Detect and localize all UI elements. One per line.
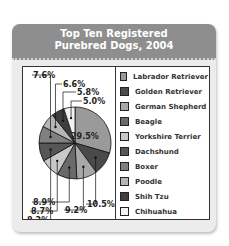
title-line-2: Purebred Dogs, 2004 (12, 40, 216, 52)
legend-label: Dachshund (135, 148, 179, 156)
legend-item: Yorkshire Terrier (120, 129, 208, 144)
legend-swatch (120, 87, 129, 96)
legend-swatch (120, 162, 129, 171)
legend-swatch (120, 177, 129, 186)
slice-label: 8.9% (33, 198, 55, 207)
legend-item: Shih Tzu (120, 189, 208, 204)
legend-swatch (120, 207, 129, 216)
legend-label: Poodle (135, 178, 162, 186)
legend-item: Boxer (120, 159, 208, 174)
legend-item: Poodle (120, 174, 208, 189)
title-line-1: Top Ten Registered (12, 28, 216, 40)
legend-swatch (120, 102, 129, 111)
chart-title: Top Ten Registered Purebred Dogs, 2004 (12, 28, 216, 52)
legend-label: Yorkshire Terrier (135, 133, 201, 141)
legend-swatch (120, 147, 129, 156)
legend-item: Golden Retriever (120, 84, 208, 99)
chart-header: Top Ten Registered Purebred Dogs, 2004 (12, 24, 216, 60)
legend-item: Labrador Retriever (120, 69, 208, 84)
legend-label: Beagle (135, 118, 162, 126)
chart-card: Top Ten Registered Purebred Dogs, 2004 2… (12, 24, 216, 232)
slice-label: 7.6% (33, 71, 55, 80)
slice-label: 9.2% (65, 206, 87, 215)
legend-item: Beagle (120, 114, 208, 129)
legend-item: German Shepherd (120, 99, 208, 114)
slice-label: 5.8% (77, 88, 99, 97)
legend-swatch (120, 192, 129, 201)
legend: Labrador RetrieverGolden RetrieverGerman… (120, 69, 208, 219)
legend-swatch (120, 72, 127, 81)
slice-label: 10.5% (87, 200, 115, 209)
legend-label: German Shepherd (135, 103, 206, 111)
legend-item: Dachshund (120, 144, 208, 159)
pie-chart: 29.5%10.5%9.2%8.9%8.7%8.2%7.6%6.6%5.8%5.… (23, 67, 115, 219)
slice-label: 8.7% (31, 207, 53, 216)
legend-label: Chihuahua (135, 208, 177, 216)
slice-label: 29.5% (71, 132, 99, 141)
panel-divider (115, 67, 116, 219)
legend-label: Labrador Retriever (133, 73, 208, 81)
legend-item: Chihuahua (120, 204, 208, 219)
legend-label: Boxer (135, 163, 158, 171)
legend-swatch (120, 132, 129, 141)
slice-label: 8.2% (27, 216, 49, 219)
legend-label: Golden Retriever (135, 88, 202, 96)
legend-label: Shih Tzu (135, 193, 169, 201)
legend-swatch (120, 117, 129, 126)
slice-label: 5.0% (83, 97, 105, 106)
chart-panel: 29.5%10.5%9.2%8.9%8.7%8.2%7.6%6.6%5.8%5.… (22, 66, 210, 220)
